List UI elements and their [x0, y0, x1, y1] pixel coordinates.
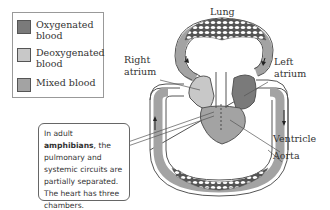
aorta-label: Aorta	[273, 150, 300, 161]
ventricle	[200, 106, 245, 144]
pulmonary-circuit	[175, 18, 273, 80]
callout-text-pre: In adult	[44, 129, 73, 138]
right-atrium-label-1: Right	[124, 54, 150, 65]
ventricle-label: Ventricle	[273, 133, 316, 144]
amphibian-callout: In adult amphibians, the pulmonary and s…	[38, 123, 130, 201]
lung-label: Lung	[210, 6, 235, 17]
callout-text-post: , the pulmonary and systemic circuits ar…	[44, 141, 122, 210]
callout-pointer-2	[128, 116, 214, 146]
right-atrium-label-2: atrium	[124, 66, 156, 77]
left-atrium	[232, 75, 256, 109]
left-atrium-label-2: atrium	[274, 68, 306, 79]
heart	[189, 72, 256, 144]
callout-text-bold: amphibians	[44, 141, 94, 150]
right-atrium	[189, 76, 214, 110]
left-atrium-label-1: Left	[274, 56, 293, 67]
